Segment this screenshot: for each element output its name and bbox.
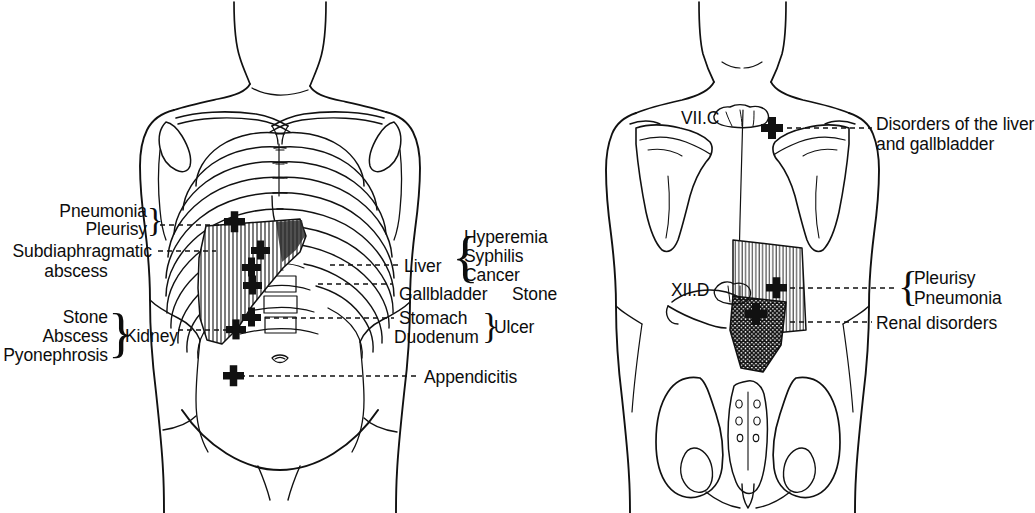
- costal-arch-lower: [246, 308, 314, 313]
- pubic-left: [258, 466, 270, 500]
- label-pyonephrosis: Pyonephrosis: [0, 345, 108, 365]
- label-gallbladder: Gallbladder: [399, 284, 487, 304]
- referred-pain-diagram: Pneumonia Pleurisy } Subdiaphragmatic ab…: [0, 0, 1035, 513]
- right-groin-crease: [364, 418, 397, 432]
- rib-12-lower-edge: [668, 306, 726, 328]
- label-subdiaphragmatic-abscess: abscess: [0, 261, 152, 281]
- rib-2-left: [183, 147, 286, 210]
- back-neck-left: [699, 2, 714, 82]
- label-gallbladder-stone: Stone: [512, 284, 557, 304]
- label-syphilis: Syphilis: [464, 246, 524, 266]
- scapula-left-posterior: [636, 125, 712, 252]
- scapula-right-posterior: [773, 125, 849, 252]
- label-liver-gallbladder-disorders-line2: and gallbladder: [876, 134, 994, 154]
- label-kidney-abscess: Abscess: [0, 326, 108, 346]
- c7-vertebra: [714, 105, 769, 128]
- label-duodenum: Duodenum: [394, 327, 479, 347]
- back-left-arm-outline: [606, 113, 636, 513]
- cross-marker: [223, 365, 244, 386]
- right-hip-contour: [843, 324, 853, 412]
- acromion-left: [159, 122, 190, 172]
- pubic-right: [288, 466, 300, 500]
- back-shoulder-right: [771, 82, 849, 113]
- nape-crease-left: [722, 62, 740, 68]
- label-ulcer: Ulcer: [494, 317, 534, 337]
- label-kidney: Kidney: [125, 326, 178, 346]
- abdomen-lower-curve: [182, 410, 378, 470]
- pelvis-posterior: [656, 378, 840, 508]
- label-stomach: Stomach: [399, 308, 467, 328]
- label-subdiaphragmatic: Subdiaphragmatic: [0, 241, 152, 261]
- neck-right-contour: [310, 2, 326, 86]
- back-neck-right: [771, 2, 786, 82]
- acromion-left-post: [630, 121, 660, 124]
- scapula-edge-right: [394, 150, 402, 240]
- neck-left-contour: [234, 2, 250, 84]
- label-liver: Liver: [404, 256, 441, 276]
- rib-11-right: [328, 308, 362, 358]
- cross-marker: [761, 117, 783, 139]
- label-c7-vertebra: VII.C: [681, 108, 719, 128]
- back-right-arm-outline: [849, 113, 879, 513]
- label-back-pneumonia: Pneumonia: [914, 288, 1002, 308]
- acromion-right: [369, 122, 400, 172]
- back-left-waist: [616, 306, 642, 324]
- umbilicus-inner: [275, 358, 285, 360]
- sternum: [276, 144, 284, 196]
- label-pleurisy: Pleurisy: [0, 219, 147, 239]
- label-back-pleurisy: Pleurisy: [914, 268, 975, 288]
- label-t12-vertebra: XII.D: [671, 280, 709, 300]
- label-hyperemia: Hyperemia: [464, 227, 548, 247]
- label-liver-gallbladder-disorders-line1: Disorders of the liver: [876, 114, 1034, 134]
- nape-crease-right: [744, 62, 762, 68]
- label-appendicitis: Appendicitis: [424, 367, 517, 387]
- umbilicus: [272, 355, 288, 363]
- label-pneumonia: Pneumonia: [0, 201, 147, 221]
- shoulder-slope-right: [310, 86, 386, 112]
- left-hip-contour: [632, 324, 642, 412]
- left-arm-outline: [140, 110, 174, 513]
- label-cancer: Cancer: [464, 265, 520, 285]
- suprasternal-notch: [252, 88, 308, 95]
- acromion-right-post: [825, 121, 855, 124]
- shoulder-slope-left: [174, 84, 250, 110]
- label-renal-disorders: Renal disorders: [876, 313, 997, 333]
- rib-2-right: [274, 147, 377, 210]
- label-kidney-stone: Stone: [0, 307, 108, 327]
- brace-pneumonia-pleurisy: }: [147, 203, 163, 237]
